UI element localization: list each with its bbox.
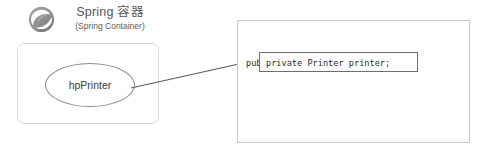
code-lines: public class Teacher { public void teach…	[246, 28, 448, 152]
java-code-block: public class Teacher { public void teach…	[237, 20, 470, 143]
spring-subtitle: (Spring Container)	[61, 20, 159, 33]
bean-node-hpprinter: hpPrinter	[45, 63, 135, 107]
code-line-field-declaration: private Printer printer;	[266, 56, 390, 70]
diagram-canvas: Spring 容器 (Spring Container) hpPrinter p…	[0, 0, 483, 152]
spring-container-header: Spring 容器 (Spring Container)	[28, 4, 158, 40]
bean-label: hpPrinter	[45, 63, 135, 107]
spring-title-group: Spring 容器 (Spring Container)	[61, 4, 159, 33]
spring-leaf-logo-icon	[28, 6, 55, 33]
code-line-field-placeholder	[246, 134, 448, 148]
code-line-blank-1	[246, 98, 448, 106]
spring-title: Spring 容器	[61, 4, 159, 20]
